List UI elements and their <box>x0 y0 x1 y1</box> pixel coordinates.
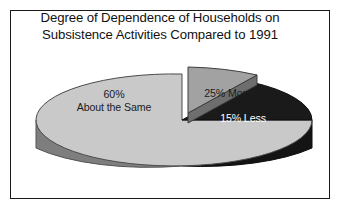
slice-label-same-text: About the Same <box>44 101 184 114</box>
slice-label-less-text: 15% Less <box>200 112 286 125</box>
slice-label-about-the-same: 60% About the Same <box>44 88 184 114</box>
figure-canvas: Degree of Dependence of Households on Su… <box>0 0 342 214</box>
slice-label-more-text: 25% More <box>176 87 280 100</box>
slice-label-more: 25% More <box>176 87 280 100</box>
slice-label-less: 15% Less <box>200 112 286 125</box>
slice-label-same-percent: 60% <box>44 88 184 101</box>
